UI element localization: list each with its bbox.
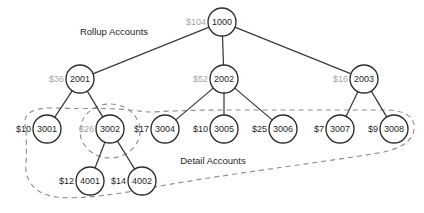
account-amount-label-2001: $36 <box>49 74 64 84</box>
edge-3002-to-4002 <box>118 141 135 168</box>
account-node-3008[interactable]: 3008$9 <box>368 115 408 143</box>
account-node-4001[interactable]: 4001$12 <box>59 167 104 195</box>
edge-2003-to-3007 <box>346 92 357 116</box>
account-node-3007[interactable]: 3007$7 <box>314 115 354 143</box>
account-amount-label-4001: $12 <box>59 176 74 186</box>
account-amount-label-3006: $25 <box>252 124 267 134</box>
edge-2003-to-3008 <box>371 91 386 116</box>
account-amount-label-2003: $16 <box>333 74 348 84</box>
caption-detail-accounts: Detail Accounts <box>180 155 246 166</box>
account-node-label-1000: 1000 <box>212 17 232 27</box>
account-node-2001[interactable]: 2001$36 <box>49 65 94 93</box>
account-node-label-3008: 3008 <box>384 124 404 134</box>
account-amount-label-3008: $9 <box>368 124 378 134</box>
captions-layer: Rollup AccountsDetail Accounts <box>80 26 246 166</box>
account-amount-label-4002: $14 <box>111 176 126 186</box>
account-node-label-3004: 3004 <box>155 124 175 134</box>
account-amount-label-1000: $104 <box>186 17 206 27</box>
edge-1000-to-2003 <box>235 27 350 73</box>
account-node-label-4001: 4001 <box>80 176 100 186</box>
account-node-3004[interactable]: 3004$17 <box>134 115 179 143</box>
account-node-label-4002: 4002 <box>132 176 152 186</box>
edges-layer <box>55 27 387 168</box>
account-node-1000[interactable]: 1000$104 <box>186 8 236 36</box>
account-node-label-3005: 3005 <box>214 124 234 134</box>
account-hierarchy-diagram: 1000$1042001$362002$522003$163001$103002… <box>0 0 424 213</box>
account-node-label-2001: 2001 <box>70 74 90 84</box>
account-node-label-3002: 3002 <box>100 124 120 134</box>
edge-2002-to-3004 <box>176 88 213 119</box>
edge-2002-to-3006 <box>235 88 272 119</box>
account-node-3006[interactable]: 3006$25 <box>252 115 297 143</box>
account-amount-label-3001: $10 <box>16 124 31 134</box>
account-node-3002[interactable]: 3002$26 <box>79 115 124 143</box>
account-amount-label-3007: $7 <box>314 124 324 134</box>
account-amount-label-3005: $10 <box>193 124 208 134</box>
caption-rollup-accounts: Rollup Accounts <box>80 26 148 37</box>
account-node-label-3007: 3007 <box>330 124 350 134</box>
account-node-4002[interactable]: 4002$14 <box>111 167 156 195</box>
nodes-layer: 1000$1042001$362002$522003$163001$103002… <box>16 8 408 195</box>
account-node-label-3001: 3001 <box>37 124 57 134</box>
edge-2001-to-3001 <box>55 91 72 117</box>
account-node-label-2003: 2003 <box>354 74 374 84</box>
account-node-3001[interactable]: 3001$10 <box>16 115 61 143</box>
edge-1000-to-2002 <box>223 36 224 64</box>
account-amount-label-3004: $17 <box>134 124 149 134</box>
account-node-3005[interactable]: 3005$10 <box>193 115 238 143</box>
account-node-label-2002: 2002 <box>214 74 234 84</box>
edge-2001-to-3002 <box>87 91 102 116</box>
account-node-2002[interactable]: 2002$52 <box>193 65 238 93</box>
diagram-canvas: 1000$1042001$362002$522003$163001$103002… <box>0 0 424 213</box>
account-node-label-3006: 3006 <box>273 124 293 134</box>
account-amount-label-3002: $26 <box>79 124 94 134</box>
account-amount-label-2002: $52 <box>193 74 208 84</box>
